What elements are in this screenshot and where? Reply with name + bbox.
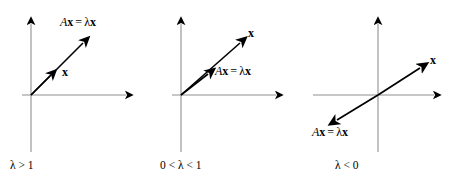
equals-symbol: = xyxy=(325,125,336,139)
vector-x-arrow xyxy=(378,68,420,95)
vector-ax-arrow xyxy=(31,43,83,95)
condition-label: 0 < λ < 1 xyxy=(160,160,202,172)
vector-x-label: x xyxy=(248,26,254,40)
vector-x-label: x xyxy=(62,65,68,79)
panel-lambda-greater-than-one: Ax=λx x λ > 1 xyxy=(0,0,152,187)
label-ax-equals-lambda-x: Ax=λx xyxy=(215,65,251,77)
label-x: x xyxy=(62,66,68,78)
panel-3-axes-and-vectors xyxy=(300,0,452,187)
panel-lambda-less-than-zero: x Ax=λx λ < 0 xyxy=(300,0,452,187)
condition-label: λ > 1 xyxy=(10,160,34,172)
lambda-vector-symbol: x xyxy=(245,64,251,78)
lambda-vector-symbol: x xyxy=(90,15,96,29)
label-ax-equals-lambda-x: Ax=λx xyxy=(312,126,348,138)
label-ax-equals-lambda-x: Ax=λx xyxy=(60,16,96,28)
label-x: x xyxy=(430,54,436,66)
label-x: x xyxy=(248,27,254,39)
condition-label: λ < 0 xyxy=(335,160,359,172)
vector-x-label: x xyxy=(430,53,436,67)
vector-ax-arrow xyxy=(337,95,378,120)
panel-lambda-between-zero-and-one: x Ax=λx 0 < λ < 1 xyxy=(150,0,302,187)
eigenvector-figure: Ax=λx x λ > 1 x xyxy=(0,0,455,187)
lambda-vector-symbol: x xyxy=(342,125,348,139)
equals-symbol: = xyxy=(228,64,239,78)
equals-symbol: = xyxy=(73,15,84,29)
